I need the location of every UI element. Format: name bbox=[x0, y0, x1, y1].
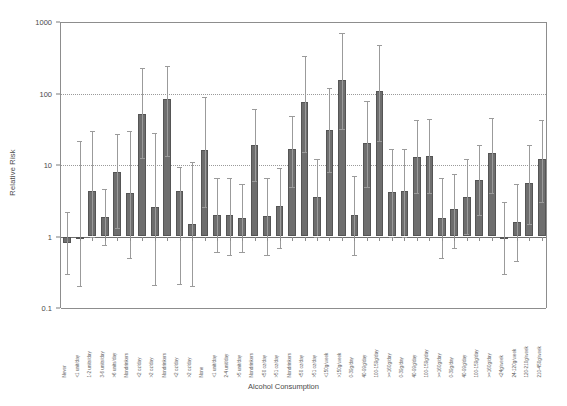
x-axis-tick-label: 40-99g/day bbox=[463, 355, 468, 378]
y-axis-tick-label: 1 bbox=[0, 232, 52, 241]
error-bar-cap-upper bbox=[364, 101, 369, 102]
error-bar-cap-lower bbox=[115, 228, 120, 229]
x-axis-tick-label: >150g/week bbox=[338, 353, 343, 378]
y-axis-tick-label: 0.1 bbox=[0, 304, 52, 313]
error-bar-cap-lower bbox=[439, 258, 444, 259]
error-bar bbox=[367, 101, 368, 186]
error-bar-cap-lower bbox=[127, 258, 132, 259]
x-axis-tick-mark bbox=[192, 237, 193, 241]
error-bar-cap-lower bbox=[327, 172, 332, 173]
error-bar-cap-upper bbox=[427, 119, 432, 120]
error-bar-cap-upper bbox=[277, 168, 282, 169]
x-axis-tick-mark bbox=[454, 237, 455, 241]
x-axis-tick-mark bbox=[155, 237, 156, 241]
x-axis-tick-label: 40-99g/day bbox=[413, 355, 418, 378]
error-bar-cap-upper bbox=[140, 68, 145, 69]
error-bar-cap-upper bbox=[389, 149, 394, 150]
x-axis-tick-label: Nondrinkers bbox=[126, 353, 131, 378]
error-bar-cap-lower bbox=[227, 255, 232, 256]
x-axis-tick-label: 1-2 units/day bbox=[88, 352, 93, 378]
x-axis-tick-mark bbox=[354, 237, 355, 241]
x-axis-tick-mark bbox=[167, 237, 168, 241]
error-bar-cap-upper bbox=[152, 133, 157, 134]
error-bar-cap-upper bbox=[314, 159, 319, 160]
error-bar-cap-upper bbox=[502, 202, 507, 203]
error-bar-cap-upper bbox=[177, 167, 182, 168]
error-bar bbox=[442, 178, 443, 258]
x-axis-tick-mark bbox=[230, 237, 231, 241]
x-axis-tick-label: 0-39g/day bbox=[401, 358, 406, 378]
x-axis-tick-mark bbox=[205, 237, 206, 241]
x-axis-tick-mark bbox=[542, 237, 543, 241]
x-axis-tick-mark bbox=[517, 237, 518, 241]
error-bar-cap-lower bbox=[364, 187, 369, 188]
x-axis-tick-label: >5 unit/day bbox=[238, 355, 243, 378]
error-bar-cap-lower bbox=[239, 252, 244, 253]
error-bar bbox=[80, 141, 81, 287]
error-bar-cap-lower bbox=[352, 255, 357, 256]
x-axis-tick-label: 210-450g/week bbox=[538, 347, 543, 378]
x-axis-tick-mark bbox=[529, 237, 530, 241]
error-bar-cap-upper bbox=[214, 178, 219, 179]
x-axis-tick-mark bbox=[217, 237, 218, 241]
error-bar bbox=[205, 97, 206, 207]
x-axis-tick-label: 40-99g/day bbox=[363, 355, 368, 378]
x-axis-tick-mark bbox=[467, 237, 468, 241]
error-bar-cap-upper bbox=[489, 118, 494, 119]
x-axis-tick-label: >=160g/day bbox=[438, 354, 443, 378]
error-bar-cap-lower bbox=[502, 274, 507, 275]
error-bar bbox=[267, 178, 268, 255]
error-bar-cap-upper bbox=[227, 178, 232, 179]
bar-series bbox=[61, 22, 546, 308]
error-bar bbox=[354, 176, 355, 255]
x-axis-tick-label: <2 oz/day bbox=[138, 358, 143, 378]
x-axis-tick-mark bbox=[130, 237, 131, 241]
error-bar-cap-lower bbox=[477, 215, 482, 216]
x-axis-tick-mark bbox=[504, 237, 505, 241]
error-bar bbox=[217, 178, 218, 252]
error-bar-cap-upper bbox=[239, 184, 244, 185]
error-bar-cap-lower bbox=[489, 193, 494, 194]
x-axis-tick-mark bbox=[392, 237, 393, 241]
error-bar-cap-upper bbox=[289, 116, 294, 117]
gridline bbox=[61, 308, 546, 309]
x-axis-tick-mark bbox=[379, 237, 380, 241]
x-axis-title: Alcohol Consumption bbox=[0, 382, 567, 391]
error-bar-cap-lower bbox=[190, 286, 195, 287]
x-axis-tick-label: >51 oz/day bbox=[313, 355, 318, 378]
x-axis-tick-label: <1 unit/day bbox=[213, 355, 218, 378]
error-bar-cap-upper bbox=[327, 88, 332, 89]
error-bar bbox=[517, 184, 518, 262]
error-bar bbox=[429, 119, 430, 193]
x-axis-tick-mark bbox=[417, 237, 418, 241]
error-bar bbox=[167, 66, 168, 156]
y-axis-tick-label: 100 bbox=[0, 89, 52, 98]
y-axis-title: Relative Risk bbox=[8, 113, 17, 233]
x-axis-tick-label: Nondrinkers bbox=[251, 353, 256, 378]
x-axis-tick-mark bbox=[80, 237, 81, 241]
error-bar bbox=[529, 145, 530, 224]
error-bar-cap-lower bbox=[527, 224, 532, 225]
x-axis-tick-label: 24-120g/week bbox=[513, 349, 518, 378]
error-bar-cap-upper bbox=[477, 145, 482, 146]
error-bar bbox=[230, 178, 231, 255]
x-axis-tick-label: 0-39g/day bbox=[351, 358, 356, 378]
error-bar-cap-upper bbox=[464, 159, 469, 160]
x-axis-tick-label: 120-210g/week bbox=[525, 347, 530, 378]
error-bar bbox=[142, 68, 143, 158]
error-bar-cap-upper bbox=[377, 45, 382, 46]
y-axis-tick-label: 1000 bbox=[0, 18, 52, 27]
error-bar bbox=[117, 134, 118, 228]
error-bar bbox=[192, 162, 193, 286]
x-axis-tick-mark bbox=[92, 237, 93, 241]
error-bar-cap-upper bbox=[302, 56, 307, 57]
x-axis-tick-mark bbox=[305, 237, 306, 241]
x-axis-tick-mark bbox=[442, 237, 443, 241]
error-bar-cap-upper bbox=[339, 33, 344, 34]
error-bar-cap-lower bbox=[539, 202, 544, 203]
x-axis-tick-label: <50 oz/day bbox=[263, 355, 268, 378]
x-axis-tick-label: 0-39g/day bbox=[451, 358, 456, 378]
x-axis-tick-mark bbox=[342, 237, 343, 241]
x-axis-tick-label: 100-159g/day bbox=[426, 350, 431, 378]
error-bar-cap-lower bbox=[339, 129, 344, 130]
